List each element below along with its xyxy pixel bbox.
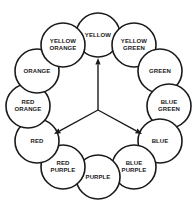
primary-arrow-group xyxy=(54,58,142,134)
arrow-to-blue-shaft xyxy=(98,110,136,131)
color-wheel-canvas xyxy=(0,0,196,214)
arrow-to-red-shaft xyxy=(60,110,98,131)
arrow-to-yellow-head xyxy=(95,58,100,65)
color-wheel-figure: YELLOWYELLOW GREENGREENBLUE GREENBLUEBLU… xyxy=(0,0,196,214)
swatch-circle-yellow-orange[interactable] xyxy=(41,23,85,67)
